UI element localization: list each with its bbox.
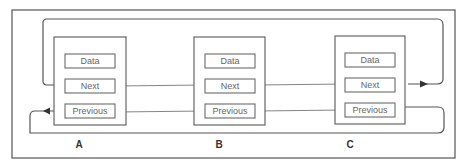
node-c-previous-label: Previous xyxy=(352,105,388,115)
linked-list-diagram: Data Next Previous A Data Next Previous … xyxy=(0,0,463,165)
node-c-data-label: Data xyxy=(360,55,379,65)
previous-link-c-b xyxy=(255,110,346,111)
node-c-label: C xyxy=(346,139,353,150)
node-b-next-label: Next xyxy=(221,81,240,91)
next-link-b-c xyxy=(256,84,346,85)
node-b-previous-label: Previous xyxy=(212,106,248,116)
node-c-next-label: Next xyxy=(361,80,380,90)
previous-link-b-a xyxy=(115,111,206,112)
next-wraparound-arrowhead-icon xyxy=(420,81,428,88)
node-b-label: B xyxy=(215,139,222,150)
node-a-previous-label: Previous xyxy=(72,106,108,116)
node-a-data-label: Data xyxy=(80,56,99,66)
previous-wraparound-arrowhead-icon xyxy=(43,108,50,115)
next-link-a-b xyxy=(115,85,205,86)
node-a-next-label: Next xyxy=(81,81,100,91)
node-a-label: A xyxy=(75,139,82,150)
node-b-data-label: Data xyxy=(220,56,239,66)
